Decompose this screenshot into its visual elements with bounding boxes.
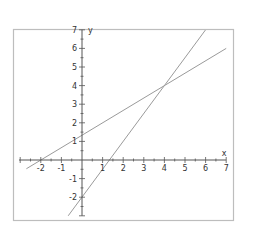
x-tick-label: 3 [141,164,146,173]
y-tick-label: -1 [69,175,77,184]
x-tick-label: 1 [100,164,105,173]
x-tick-label: -2 [37,164,45,173]
y-tick-label: 7 [72,26,77,35]
y-tick-label: 4 [72,82,77,91]
x-tick-label: 2 [121,164,126,173]
x-tick-label: 5 [182,164,187,173]
y-tick-label: 6 [72,44,77,53]
series-line-2 [68,30,205,216]
x-tick-label: 4 [162,164,167,173]
x-tick-label: 6 [203,164,208,173]
y-tick-label: 1 [72,137,77,146]
plot-frame [14,30,234,221]
tick-labels: -2-11234567-2-11234567xy [37,26,229,202]
line-chart: -2-11234567-2-11234567xy [0,0,253,241]
y-tick-label: 3 [72,100,77,109]
frame-border [14,30,234,221]
x-axis-label: x [222,149,227,158]
y-tick-label: -2 [69,193,77,202]
y-tick-label: 5 [72,63,77,72]
x-tick-label: -1 [57,164,65,173]
y-axis-label: y [88,26,93,35]
series-line-1 [26,48,226,168]
axes [19,30,226,216]
series-lines [26,30,226,216]
x-tick-label: 7 [224,164,229,173]
y-tick-label: 2 [72,119,77,128]
